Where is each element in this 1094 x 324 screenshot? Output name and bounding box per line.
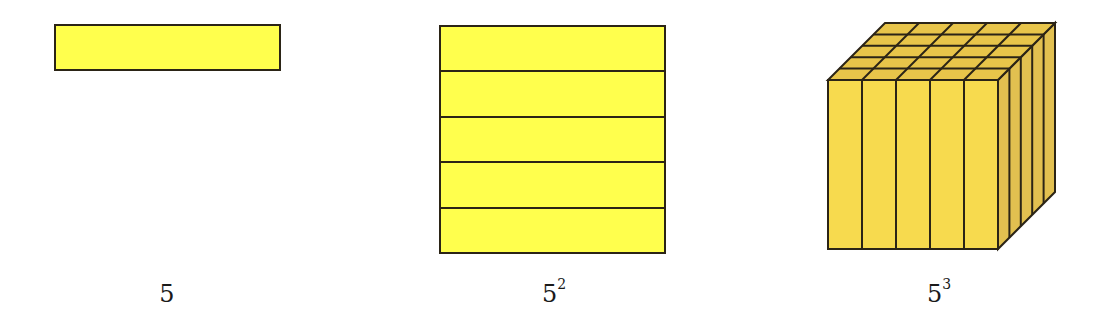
label-exponent: 3	[942, 276, 951, 292]
bar-shape	[0, 0, 360, 324]
figure-five-cubed: 53	[740, 0, 1094, 324]
figure-five-squared: 52	[360, 0, 740, 324]
label-five: 5	[127, 280, 207, 308]
label-five-squared: 52	[514, 280, 594, 308]
label-base: 5	[159, 280, 174, 308]
label-base: 5	[927, 280, 942, 308]
label-base: 5	[542, 280, 557, 308]
square-shape	[360, 0, 740, 324]
cube-shape	[740, 0, 1094, 324]
figure-five: 5	[0, 0, 360, 324]
label-five-cubed: 53	[899, 280, 979, 308]
label-exponent: 2	[557, 276, 566, 292]
